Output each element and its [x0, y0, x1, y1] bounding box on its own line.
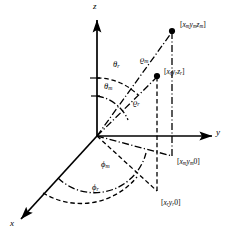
phi-arcs: [43, 153, 146, 204]
vertical-drop-lines: [157, 32, 172, 191]
rho-m-line: [97, 32, 172, 136]
radius-vectors: [97, 32, 172, 136]
theta-r-arc: [97, 78, 138, 95]
phi-r-arc: [43, 177, 137, 204]
x-axis-line: [21, 136, 97, 219]
phi-m-arc: [58, 153, 146, 193]
spherical-coordinate-diagram: z y x [xmymzm] [xryrzr] [xmym0] [xryr0] …: [0, 0, 235, 234]
axis-lines: [21, 20, 212, 219]
diagram-canvas: [0, 0, 235, 234]
point-m-marker: [169, 28, 175, 34]
ground-projection-lines: [97, 136, 172, 191]
point-r-marker: [154, 73, 160, 79]
